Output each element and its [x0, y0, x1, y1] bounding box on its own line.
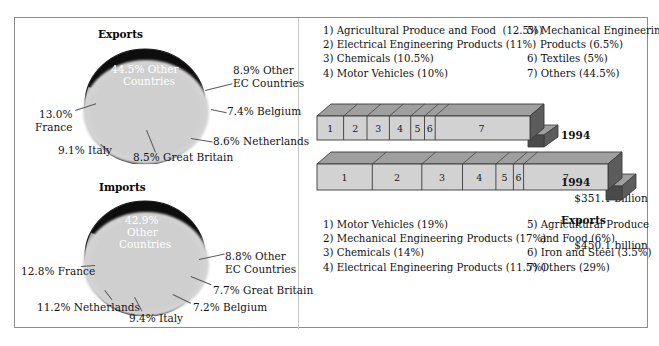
- exports-label-other-countries-line1: 44.5% Other: [111, 63, 179, 76]
- exports-label-great-britain: 8.5% Great Britain: [133, 151, 233, 164]
- exports-legend-column-1: 1) Motor Vehicles (19%) 2) Mechanical En…: [323, 218, 541, 275]
- svg-text:1: 1: [342, 172, 348, 183]
- exports-label-france-line2: France: [35, 121, 72, 134]
- legend-item: 2) Electrical Engineering Products (11%): [323, 38, 538, 52]
- legend-item: 3) Chemicals (14%): [323, 246, 541, 260]
- legend-item: 1) Agricultural Produce and Food (12.5%): [323, 24, 538, 38]
- svg-text:6: 6: [515, 172, 521, 183]
- legend-item: Products (6.5%): [527, 38, 647, 52]
- exports-legend-column-2: 5) Agricultural Produce and Food (6%) 6)…: [527, 218, 647, 275]
- imports-label-other-ec-line2: EC Countries: [225, 263, 296, 276]
- legend-item: and Food (6%): [527, 232, 647, 246]
- legend-item: 7) Others (44.5%): [527, 67, 647, 81]
- legend-item: 5) Mechanical Engineering: [527, 24, 647, 38]
- imports-label-italy: 9.4% Italy: [129, 312, 183, 325]
- svg-text:4: 4: [476, 172, 482, 183]
- imports-legend-column-1: 1) Agricultural Produce and Food (12.5%)…: [323, 24, 538, 81]
- exports-label-france-line1: 13.0%: [39, 108, 72, 121]
- legend-item: 4) Motor Vehicles (10%): [323, 67, 538, 81]
- imports-bar-year: 1994: [561, 129, 648, 142]
- legend-item: 3) Chemicals (10.5%): [323, 52, 538, 66]
- exports-label-netherlands: 8.6% Netherlands: [213, 135, 309, 148]
- imports-label-other-countries-line2: Other: [127, 226, 158, 239]
- exports-label-other-ec-line1: 8.9% Other: [233, 64, 294, 77]
- imports-label-other-countries-line3: Countries: [119, 238, 171, 251]
- legend-item: 2) Mechanical Engineering Products (17%): [323, 232, 541, 246]
- svg-text:2: 2: [352, 123, 358, 134]
- exports-label-other-countries-line2: Countries: [123, 75, 175, 88]
- legend-item: 6) Iron and Steel (3.5%): [527, 246, 647, 260]
- imports-label-netherlands: 11.2% Netherlands: [37, 301, 140, 314]
- legend-item: 7) Others (29%): [527, 261, 647, 275]
- svg-text:7: 7: [479, 123, 485, 134]
- imports-pie-title: Imports: [99, 181, 146, 193]
- svg-text:4: 4: [397, 123, 403, 134]
- exports-bar-year: 1994: [561, 176, 648, 189]
- imports-label-belgium: 7.2% Belgium: [193, 301, 267, 314]
- svg-text:3: 3: [439, 172, 445, 183]
- imports-label-other-ec-line1: 8.8% Other: [225, 250, 286, 263]
- exports-label-belgium: 7.4% Belgium: [227, 105, 301, 118]
- imports-bar-3d: 1 2 3 4 5 6 7: [315, 101, 575, 153]
- svg-text:1: 1: [327, 123, 333, 134]
- imports-label-great-britain: 7.7% Great Britain: [213, 284, 313, 297]
- imports-label-other-countries-line1: 42.9%: [125, 214, 158, 227]
- svg-text:3: 3: [375, 123, 381, 134]
- legend-item: 6) Textiles (5%): [527, 52, 647, 66]
- exports-label-other-ec-line2: EC Countries: [233, 77, 304, 90]
- svg-text:5: 5: [415, 123, 421, 134]
- panel-divider: [298, 18, 299, 329]
- figure-frame: Exports: [14, 17, 648, 328]
- svg-text:2: 2: [394, 172, 400, 183]
- imports-label-france: 12.8% France: [21, 265, 95, 278]
- svg-text:5: 5: [502, 172, 508, 183]
- imports-legend-column-2: 5) Mechanical Engineering Products (6.5%…: [527, 24, 647, 81]
- legend-item: 5) Agricultural Produce: [527, 218, 647, 232]
- legend-item: 1) Motor Vehicles (19%): [323, 218, 541, 232]
- exports-pie-title: Exports: [98, 28, 143, 40]
- legend-item: 4) Electrical Engineering Products (11.5…: [323, 261, 541, 275]
- exports-label-italy: 9.1% Italy: [58, 144, 112, 157]
- svg-text:6: 6: [427, 123, 433, 134]
